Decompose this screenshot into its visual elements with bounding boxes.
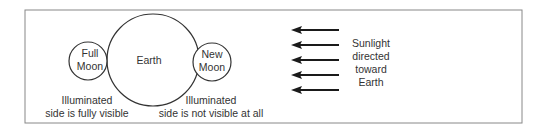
full-moon-caption-line-1: Illuminated [62, 94, 113, 106]
earth-label: Earth [136, 54, 161, 66]
full-moon-caption-line-2: side is fully visible [45, 107, 129, 119]
full-moon-label-line-2: Moon [77, 60, 103, 72]
sunlight-label-line-4: Earth [358, 76, 383, 88]
sunlight-label-line-1: Sunlight [352, 37, 390, 49]
new-moon-caption-line-2: side is not visible at all [159, 107, 263, 119]
sunlight-label-line-2: directed [352, 50, 390, 62]
moon-phase-diagram: Earth Full Moon New Moon Illuminated sid… [0, 0, 543, 133]
sunlight-label-line-3: toward [355, 63, 387, 75]
new-moon-caption-line-1: Illuminated [186, 94, 237, 106]
full-moon-label-line-1: Full [82, 47, 99, 59]
new-moon-label-line-2: Moon [199, 61, 225, 73]
new-moon-label-line-1: New [201, 48, 222, 60]
